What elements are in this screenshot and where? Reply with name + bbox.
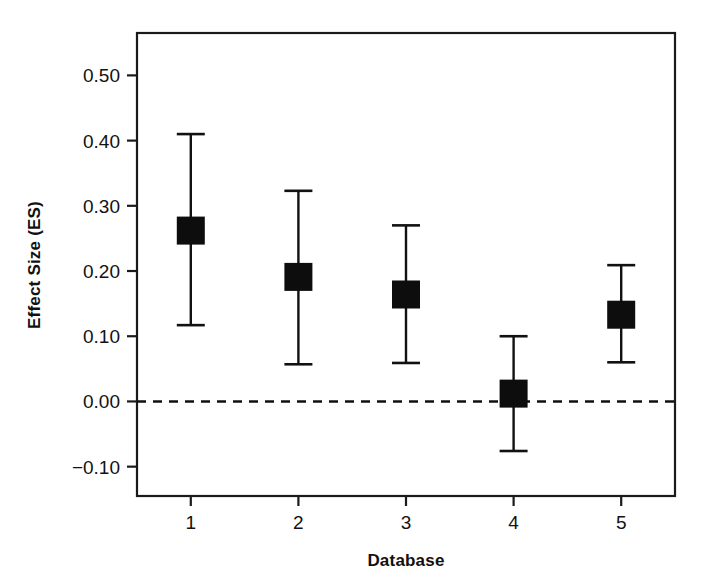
y-tick-label: 0.40 <box>83 131 120 152</box>
y-tick-label: 0.10 <box>83 326 120 347</box>
effect-size-forest-plot: 0.500.400.300.200.100.00−0.10 12345 Effe… <box>0 0 707 588</box>
chart-canvas: 0.500.400.300.200.100.00−0.10 12345 Effe… <box>0 0 707 588</box>
x-tick-label: 2 <box>293 512 304 533</box>
x-tick-label: 4 <box>508 512 519 533</box>
effect-size-marker <box>392 280 420 308</box>
effect-size-marker <box>500 380 528 408</box>
y-tick-label: 0.50 <box>83 65 120 86</box>
y-tick-label: −0.10 <box>72 457 120 478</box>
y-tick-label: 0.20 <box>83 261 120 282</box>
effect-size-marker <box>284 263 312 291</box>
y-tick-label: 0.30 <box>83 196 120 217</box>
chart-background <box>0 0 707 588</box>
effect-size-marker <box>177 217 205 245</box>
y-tick-label: 0.00 <box>83 391 120 412</box>
effect-size-marker <box>607 301 635 329</box>
x-tick-label: 3 <box>401 512 412 533</box>
y-axis-title: Effect Size (ES) <box>25 201 44 329</box>
x-axis-title: Database <box>367 551 444 570</box>
x-tick-label: 5 <box>616 512 627 533</box>
x-tick-label: 1 <box>186 512 197 533</box>
